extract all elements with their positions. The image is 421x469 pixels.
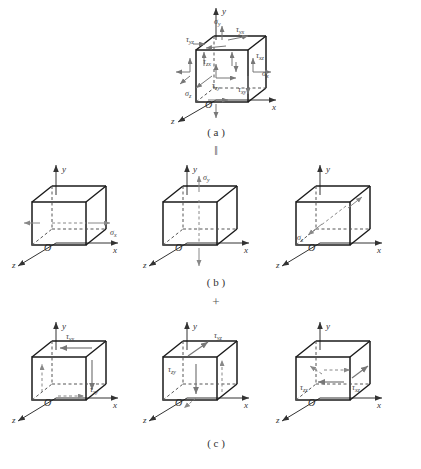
panel-c1-label-tau-yx: τyx <box>66 332 75 342</box>
panel-c1-label-tau-xy: τxy <box>90 385 99 395</box>
panel-c2-x-axis-label: x <box>243 400 248 410</box>
caption-a: ( a ) <box>186 126 246 138</box>
panel-b-cube1-group: y x z O σx <box>11 164 118 270</box>
panel-b1-label-sigma-x: σx <box>110 228 117 238</box>
panel-a-label-tau-zx: τzx <box>203 57 211 67</box>
panel-b3-cube <box>296 186 370 245</box>
figure-canvas: y x z O <box>0 0 421 469</box>
panel-a-arrow-tau-yz <box>206 46 226 48</box>
panel-c1-z-axis-label: z <box>11 415 16 425</box>
panel-b3-x-axis-label: x <box>376 245 381 255</box>
panel-a-label-tau-yz: τyz <box>186 35 195 45</box>
panel-b1-axes <box>18 165 118 266</box>
caption-c: ( c ) <box>186 437 246 449</box>
panel-b1-origin-label: O <box>44 242 51 253</box>
panel-b3-origin-label: O <box>308 242 315 253</box>
panel-a-label-tau-yx: τyx <box>236 25 245 35</box>
operator-plus: + <box>186 294 246 310</box>
panel-c3-arrow-tau-xz <box>352 366 368 378</box>
panel-c1-origin-label: O <box>44 397 51 408</box>
panel-b3-axes <box>282 165 382 266</box>
panel-c3-y-axis-label: y <box>325 321 330 331</box>
panel-b-cube3-group: y x z O σz <box>275 164 382 270</box>
panel-a-label-tau-zy: τzy <box>212 81 220 91</box>
panel-a-label-tau-xy: τxy <box>238 85 247 95</box>
panel-b3-y-axis-label: y <box>325 164 330 174</box>
panel-b-cube2-group: y x z O σy <box>142 164 249 270</box>
panel-b2-label-sigma-y: σy <box>203 173 210 183</box>
operator-equals: ‖ <box>186 143 246 159</box>
panel-a-label-tau-xz: τxz <box>256 51 265 61</box>
panel-a-label-sigma-y: σy <box>214 17 221 27</box>
panel-c2-label-tau-zy: τzy <box>168 365 176 375</box>
panel-b1-z-axis-label: z <box>11 260 16 270</box>
panel-c2-label-tau-yz: τyz <box>214 331 223 341</box>
panel-c3-axes <box>282 322 382 421</box>
panel-a-arrow-left-z <box>180 76 190 84</box>
panel-c-cube3-group: y x z O τzx τxz <box>275 321 382 425</box>
panel-c3-label-tau-zx: τzx <box>300 383 308 393</box>
panel-a-axes <box>178 8 276 122</box>
panel-b2-origin-label: O <box>175 242 182 253</box>
panel-b3-arrow-near <box>308 224 322 235</box>
panel-c3-x-axis-label: x <box>376 400 381 410</box>
caption-b: ( b ) <box>186 276 246 288</box>
panel-a-cube <box>196 36 266 102</box>
panel-b3-label-sigma-z: σz <box>297 233 304 243</box>
panel-b2-cube <box>163 186 237 245</box>
panel-c2-origin-label: O <box>175 397 182 408</box>
panel-c3-origin-label: O <box>308 397 315 408</box>
panel-a-x-axis-label: x <box>271 102 276 112</box>
panel-a-label-sigma-x: σx <box>262 69 269 79</box>
panel-a-label-sigma-z: σz <box>185 89 192 99</box>
panel-c2-axes <box>149 322 249 421</box>
panel-c-cube2-group: y x z O τyz τzy <box>142 321 249 425</box>
panel-c3-arrow-dash-near <box>310 366 322 374</box>
panel-a-origin-label: O <box>205 99 212 110</box>
panel-b2-y-axis-label: y <box>192 164 197 174</box>
panel-c2-z-axis-label: z <box>142 415 147 425</box>
panel-a-y-axis-label: y <box>221 6 226 16</box>
panel-c1-x-axis-label: x <box>112 400 117 410</box>
panel-c1-y-axis-label: y <box>61 321 66 331</box>
panel-b1-y-axis-label: y <box>61 164 66 174</box>
panel-b3-z-axis-label: z <box>275 260 280 270</box>
panel-b3-inner-dash <box>320 206 346 226</box>
panel-b1-x-axis-label: x <box>112 245 117 255</box>
panel-a-z-axis-label: z <box>170 116 175 126</box>
panel-c2-arrow-tau-yz <box>188 342 208 356</box>
panel-b2-z-axis-label: z <box>142 260 147 270</box>
panel-c2-y-axis-label: y <box>192 321 197 331</box>
panel-a-cube-hidden <box>196 36 266 102</box>
panel-b1-cube <box>32 186 106 245</box>
panel-b2-x-axis-label: x <box>243 245 248 255</box>
panel-c-cube1-group: y x z O τyx τxy <box>11 321 118 425</box>
panel-a-group: y x z O <box>170 6 276 126</box>
panel-c3-z-axis-label: z <box>275 415 280 425</box>
panel-a-arrow-sigma-z <box>196 76 212 88</box>
